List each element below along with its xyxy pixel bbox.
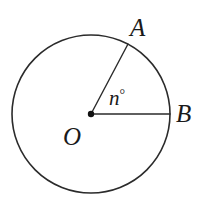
figure-background bbox=[0, 0, 202, 213]
angle-variable-text: n bbox=[109, 86, 120, 110]
label-center-o: O bbox=[63, 124, 81, 149]
label-point-b: B bbox=[176, 101, 191, 126]
degree-symbol-icon: ° bbox=[120, 87, 126, 102]
label-central-angle: n° bbox=[109, 88, 125, 109]
circle-diagram-svg bbox=[0, 0, 202, 213]
circle-geometry-figure: A B O n° bbox=[0, 0, 202, 213]
label-point-a: A bbox=[130, 15, 145, 40]
center-point-dot bbox=[88, 111, 94, 117]
